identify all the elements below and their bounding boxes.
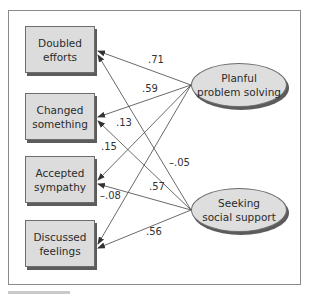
weight-seeking-doubled: –.05 (169, 157, 190, 168)
weight-planful-changed: .59 (142, 83, 158, 94)
weight-seeking-changed: .13 (116, 117, 132, 128)
box-label-line1: Accepted (36, 167, 85, 179)
weight-planful-accepted: .15 (101, 141, 117, 152)
ellipse-label-line1: Seeking (218, 197, 260, 209)
box-label-line2: something (32, 118, 88, 130)
latent-seeking-social-support: Seekingsocial support (191, 188, 287, 232)
observed-discussed-feelings: Discussedfeelings (25, 220, 95, 267)
box-label-line2: feelings (39, 245, 80, 257)
path-seeking-discussed (98, 210, 191, 248)
observed-changed-something: Changedsomething (25, 93, 95, 140)
ellipse-label-line2: social support (202, 211, 276, 223)
path-seeking-doubled (98, 55, 191, 210)
box-label-line1: Changed (37, 104, 84, 116)
weight-seeking-accepted: .57 (149, 181, 165, 192)
weight-planful-doubled: .71 (148, 54, 164, 65)
box-label-line1: Discussed (34, 231, 87, 243)
box-label-line2: sympathy (34, 181, 86, 193)
weight-planful-discussed: –.08 (100, 190, 121, 201)
ellipse-label-line1: Planful (221, 72, 257, 84)
observed-accepted-sympathy: Acceptedsympathy (25, 156, 95, 203)
box-label-line1: Doubled (38, 37, 82, 49)
observed-doubled-efforts: Doubledefforts (25, 26, 95, 73)
latent-planful-problem-solving: Planfulproblem solving (191, 63, 287, 107)
weight-seeking-discussed: .56 (146, 226, 162, 237)
ellipse-label-line2: problem solving (197, 86, 281, 98)
path-planful-doubled (98, 51, 191, 85)
box-label-line2: efforts (43, 51, 77, 63)
